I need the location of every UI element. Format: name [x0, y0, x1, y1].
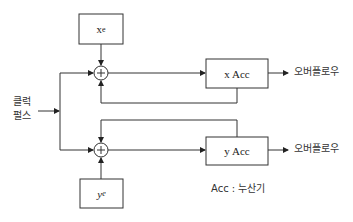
x-overflow-label: 오버플로우: [294, 67, 339, 77]
xe-label: xe: [79, 14, 123, 44]
xe-label-sub: e: [102, 25, 106, 34]
legend-acc: Acc : 누산기: [211, 184, 265, 194]
y-overflow-label: 오버플로우: [294, 144, 339, 154]
xacc-label: x Acc: [206, 59, 268, 88]
clock-label-line2: 펄스: [13, 111, 31, 121]
ye-label: ye: [80, 179, 123, 208]
yacc-label: y Acc: [206, 137, 268, 165]
clock-label-line1: 클럭: [13, 97, 31, 107]
diagram-canvas: [0, 0, 353, 222]
ye-label-sub: e: [102, 189, 106, 198]
